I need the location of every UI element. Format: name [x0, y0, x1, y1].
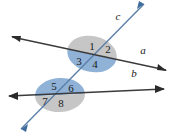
- line-a-arrowhead-end: [157, 64, 167, 71]
- line-a-arrowhead-start: [11, 36, 21, 42]
- line-label-b: b: [131, 67, 137, 79]
- angle-label-8: 8: [58, 97, 64, 109]
- angle-label-4: 4: [92, 58, 98, 70]
- line-b: [8, 85, 165, 100]
- angle-label-5: 5: [51, 80, 57, 92]
- angle-label-2: 2: [105, 43, 111, 55]
- line-b-segment: [9, 89, 164, 96]
- angle-label-6: 6: [68, 82, 74, 94]
- geometry-figure: a b c 1 2 3 4 5 6 7 8: [0, 0, 177, 136]
- line-label-c: c: [116, 10, 121, 22]
- line-label-a: a: [140, 44, 146, 56]
- angle-label-3: 3: [76, 55, 82, 67]
- line-b-arrowhead-end: [155, 85, 165, 93]
- angle-label-1: 1: [89, 40, 95, 52]
- line-c-segment: [21, 4, 144, 129]
- angle-label-7: 7: [42, 95, 48, 107]
- line-b-arrowhead-start: [8, 92, 18, 100]
- geometry-canvas: a b c 1 2 3 4 5 6 7 8: [0, 0, 177, 136]
- line-c: [21, 1, 144, 132]
